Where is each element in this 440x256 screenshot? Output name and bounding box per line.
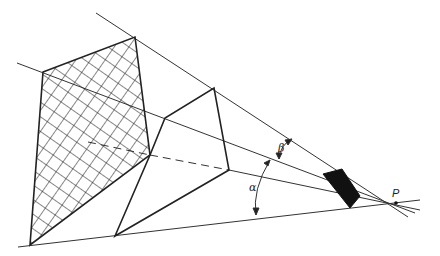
crosshatched-quadrilateral xyxy=(30,37,150,245)
point-p-label: P xyxy=(392,187,400,199)
point-p-marker xyxy=(394,201,398,205)
angle-alpha-label: α xyxy=(249,181,257,194)
perspective-diagram: P α β xyxy=(0,0,440,256)
small-solid-quadrilateral xyxy=(323,169,360,208)
angle-beta-label: β xyxy=(277,142,284,155)
